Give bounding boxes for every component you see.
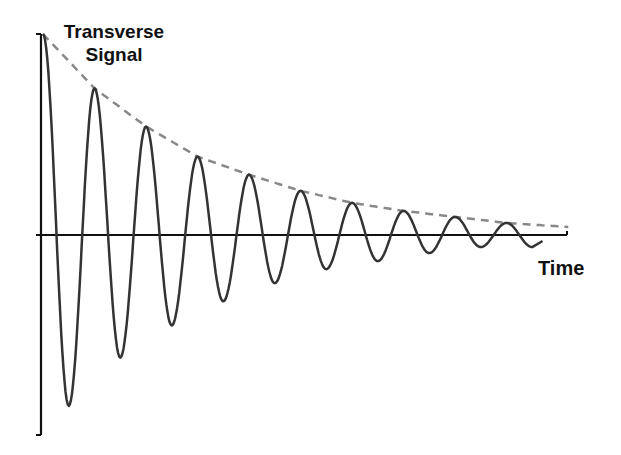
y-axis-label-line1: Transverse (54, 20, 174, 43)
damped-signal-line (43, 34, 543, 406)
y-axis-label-line2: Signal (54, 43, 174, 66)
x-axis-label: Time (538, 257, 584, 280)
axes (36, 34, 567, 435)
y-axis-label: Transverse Signal (54, 20, 174, 66)
chart-plot-area (0, 0, 621, 455)
